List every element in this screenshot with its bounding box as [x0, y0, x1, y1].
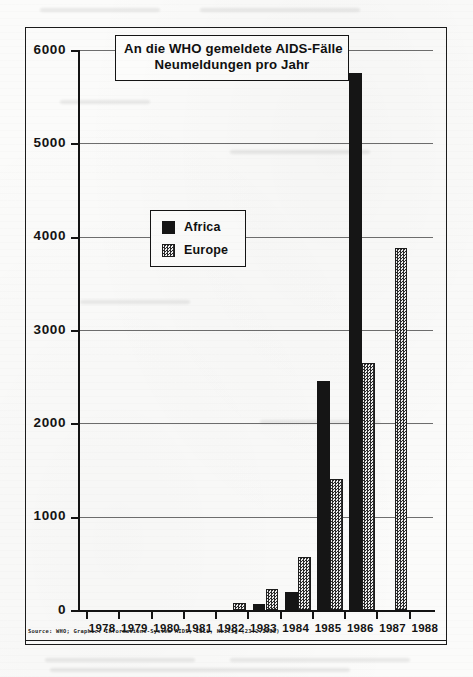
- legend-item-africa: Africa: [162, 220, 235, 234]
- x-tick-label: 1984: [282, 622, 309, 634]
- plot-area: 1978197919801981198219831984198519861987…: [78, 50, 433, 610]
- page-title: An die WHO gemeldete AIDS-Fälle: [124, 41, 340, 57]
- legend-label-europe: Europe: [184, 243, 228, 257]
- bar-africa-1985: [317, 381, 330, 610]
- chart-title-box: An die WHO gemeldete AIDS-Fälle Neumeldu…: [115, 35, 349, 81]
- bar-europe-1986: [362, 363, 375, 610]
- y-tick-label: 1000: [34, 508, 66, 523]
- y-tick-label: 5000: [34, 135, 66, 150]
- y-tick-label: 2000: [34, 415, 66, 430]
- source-divider: [25, 640, 447, 641]
- legend: Africa Europe: [150, 210, 246, 267]
- bar-europe-1984: [298, 557, 311, 610]
- legend-label-africa: Africa: [184, 220, 221, 234]
- x-tick-label: 1985: [315, 622, 342, 634]
- y-axis-labels: 6000 5000 4000 3000 2000 1000 0: [0, 50, 66, 610]
- source-caption: Source: WHO; Graphic: Informations-Syste…: [28, 628, 280, 634]
- y-tick-label: 6000: [34, 42, 66, 57]
- x-tick-label: 1986: [347, 622, 374, 634]
- x-tick-label: 1987: [379, 622, 406, 634]
- y-axis-line: [78, 50, 80, 612]
- page-subtitle: Neumeldungen pro Jahr: [124, 57, 340, 73]
- x-tick-label: 1988: [411, 622, 438, 634]
- y-tick-label: 3000: [34, 322, 66, 337]
- bar-group: [80, 50, 435, 610]
- bar-africa-1986: [349, 73, 362, 610]
- legend-swatch-africa-icon: [162, 221, 175, 234]
- legend-item-europe: Europe: [162, 243, 235, 257]
- x-axis-line: [78, 610, 435, 612]
- bar-europe-1987: [395, 248, 408, 610]
- bar-europe-1985: [330, 479, 343, 610]
- bar-europe-1983: [266, 589, 279, 610]
- y-tick-label: 0: [58, 602, 66, 617]
- legend-swatch-europe-icon: [162, 244, 175, 257]
- bar-africa-1984: [285, 592, 298, 610]
- y-tick-label: 4000: [34, 228, 66, 243]
